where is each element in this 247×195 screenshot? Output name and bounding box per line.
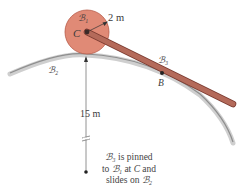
contact-point-b: [160, 71, 164, 75]
disk-radius-label: 2 m: [108, 12, 124, 23]
note-line-1: ℬ₃ is pinned: [90, 152, 168, 164]
pin-c: [85, 30, 90, 35]
track-center-dot: [84, 170, 88, 174]
note-line-2: to ℬ₁ at C and: [90, 164, 168, 176]
track-arc: [10, 55, 233, 143]
point-b-label: B: [158, 78, 164, 88]
track-radius-label: 15 m: [80, 108, 101, 119]
note-line-3: slides on ℬ₂: [90, 175, 168, 187]
point-c-label: C: [73, 27, 81, 39]
disk-label: ℬ₁: [78, 13, 88, 23]
constraint-note: ℬ₃ is pinned to ℬ₁ at C and slides on ℬ₂: [90, 152, 168, 187]
track-label: ℬ₂: [48, 65, 58, 75]
bar-label: ℬ₃: [158, 55, 168, 65]
